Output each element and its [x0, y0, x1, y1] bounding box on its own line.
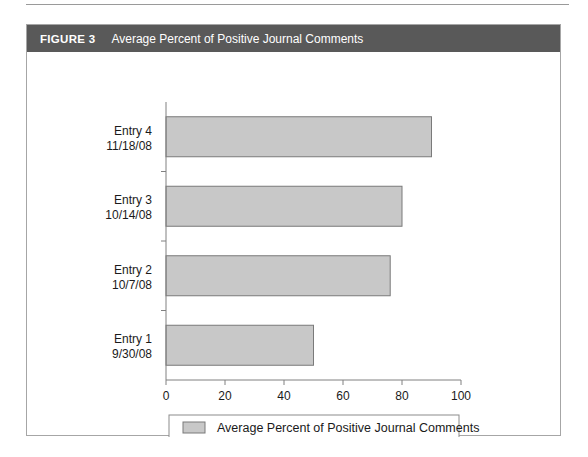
bar-3 [166, 186, 402, 226]
figure-label: FIGURE 3 [40, 33, 95, 45]
category-label-date-1: 9/30/08 [112, 347, 152, 361]
bar-4 [166, 117, 432, 157]
legend-label: Average Percent of Positive Journal Comm… [217, 421, 479, 435]
chart-legend: Average Percent of Positive Journal Comm… [169, 415, 479, 437]
x-tick-label-100: 100 [451, 389, 471, 403]
x-tick-label-60: 60 [336, 389, 350, 403]
category-label-name-4: Entry 4 [114, 124, 152, 138]
category-label-name-1: Entry 1 [114, 332, 152, 346]
x-tick-labels-group: 020406080100 [163, 389, 472, 403]
category-label-date-4: 11/18/08 [106, 139, 152, 153]
category-label-name-2: Entry 2 [114, 263, 152, 277]
figure-caption: Average Percent of Positive Journal Comm… [111, 32, 363, 46]
bar-chart: Entry 19/30/08Entry 210/7/08Entry 310/14… [27, 52, 560, 437]
chart-plot-area: Entry 19/30/08Entry 210/7/08Entry 310/14… [27, 52, 560, 437]
x-tick-label-40: 40 [277, 389, 291, 403]
x-tick-label-0: 0 [163, 389, 170, 403]
figure-box: FIGURE 3 Average Percent of Positive Jou… [26, 24, 561, 436]
x-tick-label-80: 80 [395, 389, 409, 403]
x-tick-label-20: 20 [218, 389, 232, 403]
x-axis [166, 380, 461, 385]
legend-swatch [183, 422, 205, 433]
bars-group [166, 117, 432, 366]
category-label-name-3: Entry 3 [114, 193, 152, 207]
y-axis [161, 102, 166, 380]
figure-header: FIGURE 3 Average Percent of Positive Jou… [27, 25, 560, 52]
bar-2 [166, 256, 390, 296]
category-labels-group: Entry 19/30/08Entry 210/7/08Entry 310/14… [105, 124, 152, 362]
category-label-date-2: 10/7/08 [112, 278, 152, 292]
top-rule [26, 4, 569, 5]
category-label-date-3: 10/14/08 [105, 208, 152, 222]
bar-1 [166, 325, 314, 365]
